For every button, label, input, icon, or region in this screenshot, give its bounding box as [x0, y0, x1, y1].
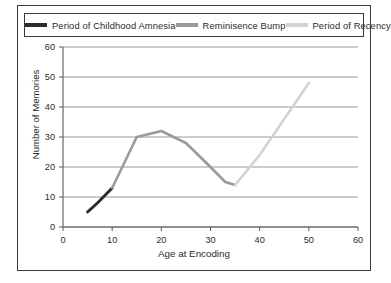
chart-canvas: 01020304050600102030405060 [17, 5, 371, 271]
x-tick-label: 10 [107, 235, 117, 245]
y-tick-label: 0 [50, 222, 55, 232]
x-tick-label: 20 [156, 235, 166, 245]
x-tick-label: 0 [60, 235, 65, 245]
y-tick-label: 10 [45, 192, 55, 202]
y-tick-label: 60 [45, 42, 55, 52]
series-line-period-of-recency [235, 83, 309, 185]
x-tick-label: 60 [353, 235, 363, 245]
series-line-reminisence-bump [112, 131, 235, 188]
x-tick-label: 30 [205, 235, 215, 245]
y-tick-label: 20 [45, 162, 55, 172]
x-tick-label: 50 [304, 235, 314, 245]
plot-area-wrapper: Number of Memories Age at Encoding 01020… [17, 5, 371, 271]
y-tick-label: 40 [45, 102, 55, 112]
series-line-period-of-childhood-amnesia [88, 188, 113, 212]
y-tick-label: 30 [45, 132, 55, 142]
x-tick-label: 40 [255, 235, 265, 245]
y-tick-label: 50 [45, 72, 55, 82]
